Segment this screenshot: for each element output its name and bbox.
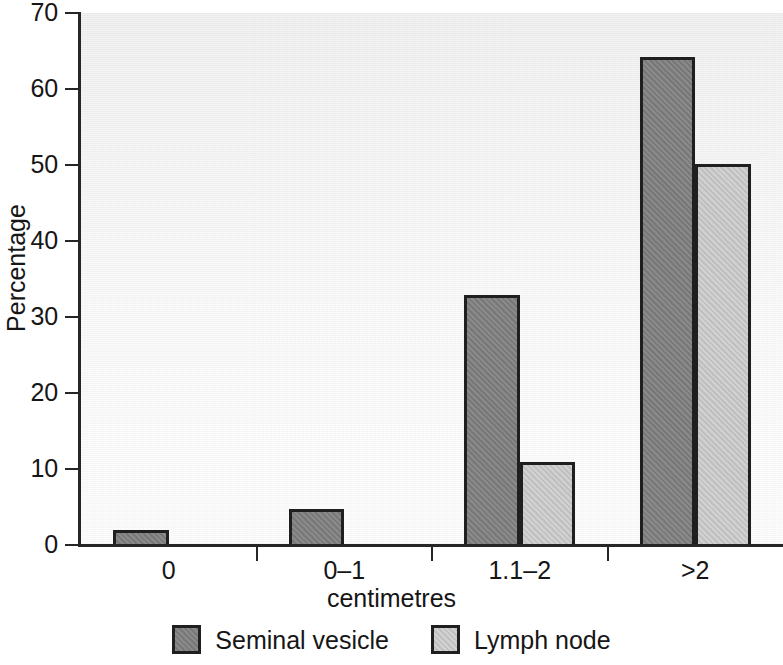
y-axis-tick — [65, 392, 78, 394]
y-axis-tick — [65, 240, 78, 242]
y-axis-tick — [65, 468, 78, 470]
chart-legend: Seminal vesicleLymph node — [0, 625, 783, 654]
y-axis-tick-label: 0 — [10, 532, 58, 557]
x-axis-title: centimetres — [0, 584, 783, 612]
bar-seminal-vesicle-2 — [464, 295, 520, 547]
dark-gray-swatch — [172, 625, 201, 654]
y-axis-tick — [65, 164, 78, 166]
y-axis-tick — [65, 12, 78, 14]
bar-lymph-node-3 — [695, 164, 751, 547]
legend-item: Seminal vesicle — [172, 625, 389, 654]
legend-item: Lymph node — [431, 625, 611, 654]
y-axis-tick — [65, 88, 78, 90]
y-axis-tick-label: 20 — [10, 380, 58, 405]
y-axis-tick-label: 60 — [10, 76, 58, 101]
x-axis-tick-label: 0 — [79, 556, 259, 584]
plot-area — [81, 13, 783, 546]
legend-label: Seminal vesicle — [215, 626, 389, 654]
bar-chart-figure: 010203040506070 00–11.1–2>2 Percentage c… — [0, 0, 783, 665]
y-axis-line — [78, 12, 81, 547]
x-axis-tick-label: 0–1 — [254, 556, 434, 584]
x-axis-tick-label: >2 — [605, 556, 783, 584]
legend-label: Lymph node — [474, 626, 611, 654]
bar-seminal-vesicle-1 — [289, 509, 345, 547]
bar-lymph-node-2 — [520, 462, 576, 547]
y-axis-tick-label: 70 — [10, 0, 58, 25]
x-axis-tick-label: 1.1–2 — [430, 556, 610, 584]
y-axis-tick-label: 10 — [10, 456, 58, 481]
bar-seminal-vesicle-3 — [640, 57, 696, 547]
light-gray-swatch — [431, 625, 460, 654]
y-axis-tick — [65, 316, 78, 318]
y-axis-title: Percentage — [3, 158, 29, 378]
y-axis-tick — [65, 544, 78, 546]
